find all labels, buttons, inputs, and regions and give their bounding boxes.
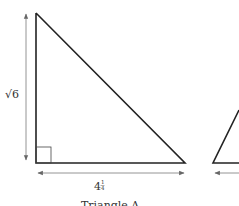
base-label-whole: 4 bbox=[94, 180, 101, 193]
triangle-a bbox=[36, 13, 185, 163]
right-angle-marker bbox=[36, 147, 51, 163]
triangle-b-partial bbox=[213, 110, 239, 163]
diagram-canvas: √6 4 1 4 Triangle A bbox=[0, 0, 239, 206]
base-label: 4 1 4 bbox=[94, 179, 105, 193]
height-label: √6 bbox=[5, 88, 19, 101]
base-label-denominator: 4 bbox=[101, 185, 105, 191]
triangle-caption: Triangle A bbox=[81, 199, 140, 206]
